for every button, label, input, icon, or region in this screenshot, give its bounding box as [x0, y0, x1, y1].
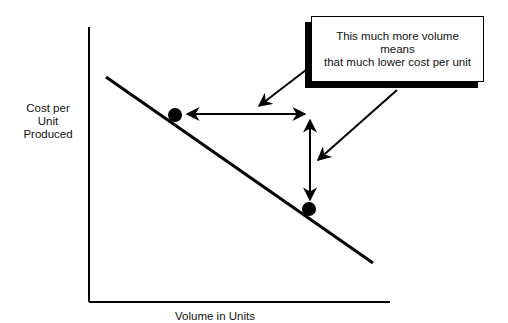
callout-box: This much more volume means that much lo… [311, 16, 484, 82]
callout-pointer-volume [259, 70, 306, 106]
callout-line: This much more volume [336, 30, 459, 43]
callout-line: that much lower cost per unit [324, 56, 471, 69]
high-volume-point [302, 202, 316, 216]
callout-pointer-cost [318, 90, 397, 160]
y-axis-label-line: Cost per [12, 102, 84, 115]
cost-curve-line [106, 77, 373, 263]
low-volume-point [168, 108, 182, 122]
callout-line: means [380, 43, 415, 56]
x-axis-label: Volume in Units [150, 310, 280, 322]
y-axis-label: Cost per Unit Produced [12, 102, 84, 141]
y-axis-label-line: Unit [12, 115, 84, 128]
y-axis-label-line: Produced [12, 128, 84, 141]
